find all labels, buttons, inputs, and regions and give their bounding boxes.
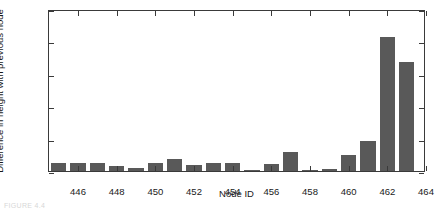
- plot-area: 00.050.10.150.20.25 44644845045245445645…: [48, 10, 425, 172]
- x-tick-mark-top: [387, 11, 388, 16]
- x-tick-mark-top: [271, 11, 272, 16]
- x-tick-mark-top: [233, 11, 234, 16]
- bar: [51, 163, 66, 171]
- x-tick-mark: [271, 166, 272, 171]
- x-tick-mark: [194, 166, 195, 171]
- x-tick-mark: [78, 166, 79, 171]
- figure-root: 00.050.10.150.20.25 44644845045245445645…: [0, 0, 440, 213]
- y-tick-mark-right: [419, 76, 424, 77]
- x-tick-mark-top: [155, 11, 156, 16]
- y-tick-mark: [49, 108, 54, 109]
- bar: [283, 152, 298, 171]
- bar: [167, 159, 182, 171]
- x-tick-mark: [310, 166, 311, 171]
- bar: [244, 170, 259, 171]
- y-tick-mark: [49, 43, 54, 44]
- x-tick-mark: [349, 166, 350, 171]
- x-tick-mark: [117, 166, 118, 171]
- bar-series: [49, 11, 424, 171]
- y-tick-mark-right: [419, 108, 424, 109]
- y-axis-title: Difference in height with previous node: [0, 9, 5, 173]
- bar: [206, 163, 221, 171]
- bar: [128, 168, 143, 171]
- x-tick-mark-top: [78, 11, 79, 16]
- x-tick-mark-top: [426, 11, 427, 16]
- x-tick-mark: [387, 166, 388, 171]
- bar: [360, 141, 375, 171]
- figure-caption: FIGURE 4.4: [4, 202, 45, 209]
- x-axis-title: Node ID: [48, 188, 425, 199]
- y-tick-mark: [49, 11, 54, 12]
- bar: [399, 62, 414, 171]
- y-tick-mark-right: [419, 173, 424, 174]
- bar: [322, 169, 337, 171]
- y-tick-mark-right: [419, 11, 424, 12]
- x-tick-mark-top: [117, 11, 118, 16]
- bar: [90, 163, 105, 171]
- x-tick-mark: [233, 166, 234, 171]
- x-tick-mark-top: [310, 11, 311, 16]
- x-tick-mark-top: [349, 11, 350, 16]
- y-tick-mark-right: [419, 141, 424, 142]
- bar: [380, 37, 395, 171]
- x-tick-mark: [426, 166, 427, 171]
- y-tick-mark: [49, 76, 54, 77]
- y-tick-mark: [49, 173, 54, 174]
- x-tick-mark: [155, 166, 156, 171]
- y-tick-mark: [49, 141, 54, 142]
- y-tick-mark-right: [419, 43, 424, 44]
- x-tick-mark-top: [194, 11, 195, 16]
